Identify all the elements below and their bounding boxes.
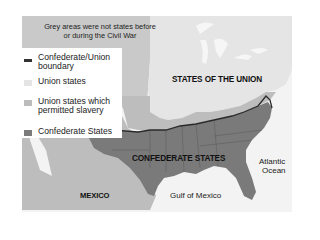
legend-label: Union states which permitted slavery (38, 97, 120, 115)
confederate-swatch (24, 130, 32, 136)
legend-label: Confederate States (38, 127, 112, 136)
gulf-label: Gulf of Mexico (170, 191, 221, 200)
legend-label: Union states (38, 77, 86, 86)
legend-label: Confederate/Union boundary (38, 53, 120, 71)
union-swatch (24, 80, 32, 86)
union-label: STATES OF THE UNION (172, 75, 262, 84)
atlantic-label-1: Atlantic (259, 157, 285, 166)
legend-item-confederate: Confederate States (24, 127, 112, 136)
legend-item-boundary: Confederate/Union boundary (24, 53, 120, 71)
map-note: Grey areas were not states before or dur… (44, 22, 156, 40)
legend-item-union: Union states (24, 77, 86, 86)
legend-item-slave-union: Union states which permitted slavery (24, 97, 120, 115)
slave-union-swatch (24, 100, 32, 106)
confederate-label: CONFEDERATE STATES (132, 154, 225, 163)
boundary-line-swatch (24, 59, 32, 62)
atlantic-label-2: Ocean (262, 166, 286, 175)
mexico-label: MEXICO (80, 191, 109, 200)
